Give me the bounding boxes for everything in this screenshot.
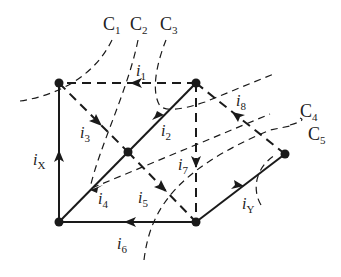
direction-arrows bbox=[54, 78, 245, 227]
node-bottom-left bbox=[55, 218, 64, 227]
label-c2: C2 bbox=[130, 14, 148, 36]
branch-iy bbox=[196, 154, 285, 222]
cutset-c3-curve bbox=[155, 40, 276, 109]
cutset-curves bbox=[20, 40, 302, 260]
label-c1: C1 bbox=[103, 14, 121, 36]
label-i3: i3 bbox=[80, 124, 90, 144]
node-center bbox=[124, 148, 133, 157]
label-c5: C5 bbox=[308, 124, 326, 146]
cutset-c5-curve bbox=[144, 126, 290, 260]
branch-i2 bbox=[128, 83, 196, 152]
label-c4: C4 bbox=[300, 101, 318, 123]
node-top-right bbox=[192, 79, 201, 88]
label-i6: i6 bbox=[117, 235, 127, 255]
circuit-graph-diagram: i1 i2 i3 i4 i5 i6 i7 i8 iX iY C1 C2 C3 C… bbox=[0, 0, 341, 277]
label-i8: i8 bbox=[236, 92, 246, 112]
label-c3: C3 bbox=[160, 14, 178, 36]
branch-i3 bbox=[59, 83, 128, 152]
arrow-i7-icon bbox=[191, 156, 201, 168]
label-i2: i2 bbox=[161, 122, 171, 142]
cutset-c4-curve bbox=[92, 114, 270, 188]
branch-i4 bbox=[59, 152, 128, 222]
node-top-left bbox=[55, 79, 64, 88]
cutset-c5-tail bbox=[256, 155, 275, 205]
branch-labels: i1 i2 i3 i4 i5 i6 i7 i8 iX iY bbox=[33, 62, 254, 255]
arrow-i5-icon bbox=[154, 180, 167, 192]
node-bottom-right bbox=[192, 218, 201, 227]
label-i4: i4 bbox=[98, 190, 108, 210]
label-ix: iX bbox=[33, 151, 45, 171]
cutset-c1-curve bbox=[20, 40, 112, 101]
node-far-right bbox=[281, 150, 290, 159]
label-i7: i7 bbox=[178, 156, 188, 176]
label-i5: i5 bbox=[138, 189, 148, 209]
label-iy: iY bbox=[242, 195, 254, 215]
cutset-labels: C1 C2 C3 C4 C5 bbox=[103, 14, 326, 146]
branches bbox=[59, 83, 285, 222]
label-i1: i1 bbox=[136, 62, 146, 82]
